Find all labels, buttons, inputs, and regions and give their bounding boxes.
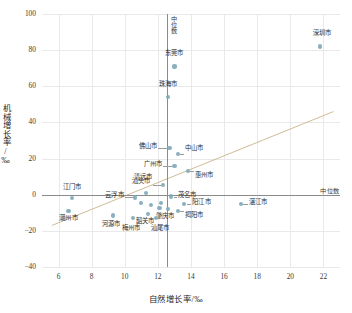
data-point[interactable]	[161, 183, 165, 187]
data-point-label: 中山市	[185, 145, 203, 151]
data-point[interactable]	[133, 195, 137, 199]
gridline-horizontal	[42, 14, 340, 15]
label-leader-line	[180, 211, 184, 212]
y-tick-label: 60	[6, 82, 36, 89]
data-point[interactable]	[139, 201, 143, 205]
data-point[interactable]	[182, 202, 186, 206]
x-tick-label: 16	[212, 273, 236, 280]
data-point[interactable]	[176, 152, 180, 156]
x-tick-label: 12	[146, 273, 170, 280]
plot-area: 中位数中位数 深圳市东莞市珠海市佛山市中山市广州市惠州市清远市汕头市江门市云浮市…	[42, 14, 340, 267]
label-leader-line	[174, 197, 178, 198]
label-leader-line	[158, 148, 167, 149]
label-leader-line	[153, 185, 161, 186]
data-point[interactable]	[166, 207, 170, 211]
y-tick-label: 80	[6, 46, 36, 53]
gridline-horizontal	[42, 159, 340, 160]
data-point[interactable]	[146, 212, 150, 216]
data-point[interactable]	[157, 206, 161, 210]
label-leader-line	[163, 166, 172, 167]
median-label-vertical: 中位数	[170, 16, 179, 35]
data-point[interactable]	[239, 202, 243, 206]
data-point-label: 惠州市	[195, 172, 213, 178]
data-point[interactable]	[149, 203, 153, 207]
data-point-label: 珠海市	[159, 81, 177, 87]
median-label-horizontal: 中位数	[320, 186, 339, 195]
gridline-horizontal	[42, 122, 340, 123]
data-point[interactable]	[169, 194, 173, 198]
gridline-vertical	[224, 14, 225, 267]
data-point[interactable]	[176, 209, 180, 213]
data-point[interactable]	[172, 64, 176, 68]
label-leader-line	[243, 204, 248, 205]
data-point-label: 河源市	[102, 221, 120, 227]
y-tick-label: −20	[6, 227, 36, 234]
data-point[interactable]	[131, 216, 135, 220]
gridline-vertical	[59, 14, 60, 267]
gridline-vertical	[191, 14, 192, 267]
data-point[interactable]	[172, 164, 176, 168]
y-tick-label: 100	[6, 10, 36, 17]
label-leader-line	[180, 154, 184, 155]
x-tick-label: 18	[245, 273, 269, 280]
data-point-label: 阳江市	[192, 199, 210, 205]
label-leader-line	[190, 171, 194, 172]
data-point-label: 深圳市	[313, 30, 331, 36]
data-point[interactable]	[70, 196, 74, 200]
data-point[interactable]	[159, 201, 163, 205]
gridline-vertical	[92, 14, 93, 267]
y-tick-label: 0	[6, 191, 36, 198]
data-point-label: 佛山市	[139, 143, 157, 149]
data-point-label: 揭阳市	[185, 212, 203, 218]
data-point-label: 湛江市	[249, 199, 267, 205]
gridline-horizontal	[42, 267, 340, 268]
x-tick-label: 22	[311, 273, 335, 280]
gridline-horizontal	[42, 50, 340, 51]
gridline-vertical	[257, 14, 258, 267]
label-leader-line	[125, 197, 133, 198]
x-tick-label: 14	[179, 273, 203, 280]
data-point-label: 云浮市	[105, 192, 123, 198]
data-point-label: 汕头市	[132, 178, 150, 184]
data-point-label: 肇庆市	[156, 213, 174, 219]
data-point[interactable]	[318, 44, 322, 48]
gridline-vertical	[323, 14, 324, 267]
data-point[interactable]	[166, 95, 170, 99]
y-tick-label: −40	[6, 263, 36, 270]
data-point-label: 汕尾市	[151, 225, 169, 231]
gridline-horizontal	[42, 86, 340, 87]
x-tick-label: 8	[80, 273, 104, 280]
gridline-vertical	[290, 14, 291, 267]
data-point-label: 东莞市	[165, 50, 183, 56]
x-tick-label: 20	[278, 273, 302, 280]
data-point-label: 潮州市	[59, 215, 77, 221]
x-tick-label: 6	[47, 273, 71, 280]
scatter-chart: 机械增长率/‰ 中位数中位数 深圳市东莞市珠海市佛山市中山市广州市惠州市清远市汕…	[0, 0, 352, 313]
data-point-label: 梅州市	[122, 225, 140, 231]
y-tick-label: 20	[6, 155, 36, 162]
label-leader-line	[187, 204, 192, 205]
data-point[interactable]	[167, 146, 171, 150]
x-axis-title: 自然增长率/‰	[0, 292, 352, 304]
y-tick-label: 40	[6, 118, 36, 125]
gridline-horizontal	[42, 231, 340, 232]
data-point[interactable]	[186, 169, 190, 173]
data-point-label: 广州市	[144, 161, 162, 167]
data-point-label: 江门市	[63, 184, 81, 190]
data-point[interactable]	[111, 213, 115, 217]
data-point[interactable]	[66, 209, 70, 213]
x-tick-label: 10	[113, 273, 137, 280]
